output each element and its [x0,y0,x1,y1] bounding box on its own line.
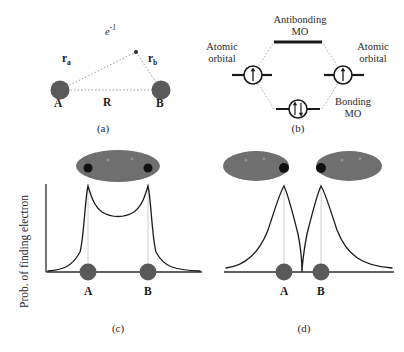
line-ra [60,52,136,90]
panel-a-atom-b-label: B [156,97,164,109]
panel-c-probability-curve [48,186,200,271]
ra-subscript: a [67,58,71,67]
cloud-right-nucleus-b [316,163,326,173]
electron-label: e-1 [105,24,116,37]
caption-c: (c) [103,322,133,334]
panel-d-nucleus-a [276,264,293,281]
rb-label: rb [148,52,157,67]
cloud-left-speck-1 [245,159,248,162]
antibonding-mo-label-line2: MO [292,26,309,37]
panel-d-nucleus-b [313,264,330,281]
cloud-speck-2 [131,158,134,161]
caption-b: (b) [283,122,313,134]
left-atomic-orbital-label: Atomic orbital [197,41,247,65]
cloud-right-speck-1 [341,159,344,162]
antibonding-electron-cloud-right [316,151,382,181]
cloud-right-speck-2 [359,158,362,161]
rb-subscript: b [153,58,157,67]
bonding-mo-circle [289,100,307,118]
electron-point [134,50,138,54]
panel-d-atom-a-label: A [280,285,288,297]
bonding-mo-label-line1: Bonding [335,96,371,107]
panel-c-atom-a-label: A [84,285,92,297]
y-axis-label: Prob. of finding electron [18,195,30,308]
cloud-left-nucleus-a [279,163,289,173]
panel-c-plot [32,148,207,300]
electron-charge: -1 [110,23,116,32]
right-atomic-orbital-label: Atomic orbital [348,41,398,65]
figure-molecular-orbitals: e-1 ra rb A B R (a) [0,0,404,352]
left-atomic-orbital-line1: Atomic [206,41,238,52]
panel-a-atom-a-label: A [54,97,62,109]
panel-c-nucleus-a [80,264,97,281]
caption-d: (d) [289,322,319,334]
panel-c-nucleus-b [140,264,157,281]
cloud-nucleus-a [84,164,93,173]
ra-label: ra [62,52,71,67]
right-atomic-orbital-line2: orbital [359,53,386,64]
cloud-speck-1 [106,158,109,161]
right-atomic-orbital-line1: Atomic [357,41,389,52]
panel-c-atom-b-label: B [144,285,152,297]
cloud-nucleus-b [144,164,153,173]
antibonding-mo-label: Antibonding MO [258,14,342,38]
panel-d-svg [218,148,398,300]
antibonding-mo-label-line1: Antibonding [273,14,326,25]
panel-d-probability-curve [226,186,392,272]
panel-d-atom-b-label: B [317,285,325,297]
left-atomic-orbital-line2: orbital [208,53,235,64]
caption-a: (a) [88,122,118,134]
cloud-left-speck-2 [263,158,266,161]
panel-d-plot [218,148,398,300]
bonding-mo-label: Bonding MO [325,96,381,120]
panel-c-svg [32,148,207,300]
panel-a-distance-label: R [103,96,111,108]
bonding-mo-label-line2: MO [345,108,362,119]
antibonding-electron-cloud-left [223,151,289,181]
